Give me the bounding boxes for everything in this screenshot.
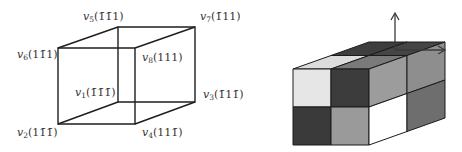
edge-v4-v3 (135, 102, 195, 124)
front-face-cell (331, 107, 369, 145)
vertex-label-v1: v1(1̄1̄1̄) (75, 86, 116, 100)
front-face-cell (293, 69, 331, 107)
front-face-cell (293, 107, 331, 145)
vertex-label-v2: v2(11̄1̄) (17, 126, 58, 140)
vertex-label-v4: v4(111̄) (142, 126, 183, 140)
edge-v2-v1 (58, 102, 118, 124)
front-face-cell (331, 69, 369, 107)
edge-v6-v5 (58, 27, 118, 48)
vertex-label-v7: v7(1̄11) (200, 10, 241, 24)
wireframe-cube (58, 27, 195, 124)
vertex-label-v3: v3(1̄11̄) (203, 88, 244, 102)
figure: v5(1̄1̄1) v7(1̄11) v6(11̄1) v8(111) v1(1… (0, 0, 462, 152)
vertex-label-v8: v8(111) (142, 51, 183, 65)
block-cube (293, 42, 445, 145)
back-face-edges (118, 27, 195, 102)
vertex-label-v6: v6(11̄1) (17, 48, 58, 62)
vertex-label-v5: v5(1̄1̄1) (83, 10, 124, 24)
edge-v8-v7 (135, 27, 195, 48)
